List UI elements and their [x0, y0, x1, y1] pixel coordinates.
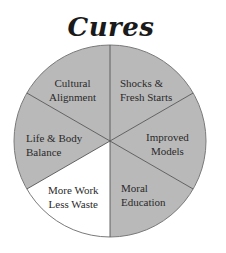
label-line: Shocks &	[120, 76, 172, 90]
label-line: Moral	[121, 181, 166, 195]
label-line: Life & Body	[26, 131, 82, 145]
label-line: Models	[146, 144, 189, 158]
label-cultural-alignment: Cultural Alignment	[49, 76, 96, 104]
label-line: Improved	[146, 130, 189, 144]
label-line: More Work	[48, 183, 99, 197]
label-life-body-balance: Life & Body Balance	[26, 131, 82, 159]
label-line: Balance	[26, 145, 82, 159]
label-moral-education: Moral Education	[121, 181, 166, 209]
label-line: Less Waste	[48, 197, 99, 211]
label-shocks-fresh-starts: Shocks & Fresh Starts	[120, 76, 172, 104]
label-line: Education	[121, 195, 166, 209]
pie-chart	[0, 0, 226, 253]
label-improved-models: Improved Models	[146, 130, 189, 158]
label-more-work-less-waste: More Work Less Waste	[48, 183, 99, 211]
label-line: Cultural	[49, 76, 96, 90]
label-line: Alignment	[49, 90, 96, 104]
label-line: Fresh Starts	[120, 90, 172, 104]
